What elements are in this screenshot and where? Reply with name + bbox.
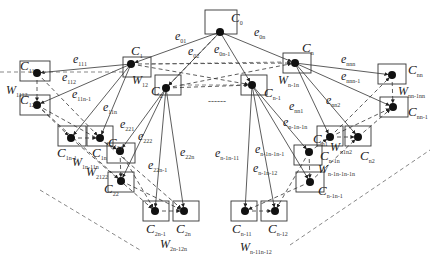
node-dot <box>96 134 104 142</box>
edge-label: e22n <box>180 145 194 160</box>
edge-label: e0n <box>254 25 265 40</box>
edge-line <box>295 63 328 133</box>
weight-label: Wnn-1nn <box>398 84 425 99</box>
edge-label: en-1n-12 <box>253 161 277 176</box>
node-label: Cn1 <box>313 131 328 147</box>
weight-label: Wn-1n-1n-1n <box>318 162 355 177</box>
weight-label: W12 <box>132 73 148 88</box>
diagram-canvas: C0C1C2CnCn-1C11C12C1n-1C1nC21C22C2n-1C2n… <box>0 0 433 256</box>
edge-label: en-1n-1n-1 <box>255 142 284 157</box>
node-label: Cn-12 <box>268 221 288 237</box>
node-label: Cn <box>302 40 314 56</box>
labels-layer: C0C1C2CnCn-1C11C12C1n-1C1nC21C22C2n-1C2n… <box>6 10 428 255</box>
edge-label: en-1n-11 <box>215 146 239 161</box>
dashed-link <box>40 190 140 250</box>
node-label: Cnn-1 <box>408 104 428 120</box>
edge-label: e22n-1 <box>148 158 167 173</box>
edge-label: ennn-1 <box>341 69 360 84</box>
edge-label: e11n-1 <box>72 87 91 102</box>
graph-svg: C0C1C2CnCn-1C11C12C1n-1C1nC21C22C2n-1C2n… <box>0 0 433 256</box>
node-dot <box>151 207 159 215</box>
edge-line <box>166 85 248 88</box>
node-dot <box>117 177 125 185</box>
node-dot <box>248 81 256 89</box>
node-dot <box>241 207 249 215</box>
node-label: C22 <box>104 181 119 197</box>
edge-label: e01 <box>175 29 186 44</box>
edges-layer <box>0 32 430 250</box>
node-label: Cn-11 <box>232 221 251 237</box>
node-dot <box>180 207 188 215</box>
edge-label: enn1 <box>289 99 303 114</box>
node-dot <box>305 148 313 156</box>
ellipsis-text: ------ <box>208 96 226 106</box>
edge-label: e111 <box>73 52 87 67</box>
node-dot <box>388 71 396 79</box>
edge-line <box>131 64 248 84</box>
weight-label: W2n-12n <box>160 237 187 252</box>
edge-line <box>249 182 310 209</box>
edge-line <box>131 63 291 64</box>
node-dot <box>127 60 135 68</box>
edge-line <box>245 85 252 207</box>
edge-line <box>392 75 393 103</box>
node-dot <box>67 134 75 142</box>
node-label: Cn2 <box>360 148 375 164</box>
node-label: C2n-1 <box>146 221 166 237</box>
node-label: C0 <box>231 10 243 26</box>
edge-line <box>121 181 180 209</box>
node-label: C2n <box>176 221 191 237</box>
dashed-link <box>290 150 430 245</box>
node-dot <box>389 103 397 111</box>
node-label: C1n <box>92 145 107 161</box>
node-dot <box>162 84 170 92</box>
node-label: C11 <box>20 58 34 74</box>
node-label: C2 <box>151 83 163 99</box>
node-label: Cnn <box>408 62 423 78</box>
edge-label: e0n-1 <box>214 42 230 57</box>
edge-label: enn2 <box>326 93 340 108</box>
edge-line <box>277 152 309 208</box>
weight-label: W1112 <box>6 83 28 98</box>
edge-line <box>358 110 390 137</box>
weight-label: Wn-1n <box>278 73 299 88</box>
node-dot <box>271 207 279 215</box>
node-label: C1 <box>131 43 143 59</box>
node-dot <box>354 133 362 141</box>
edge-label: e02 <box>188 44 199 59</box>
weight-label: Wn-11n-12 <box>240 240 272 255</box>
node-dot <box>306 178 314 186</box>
node-dot <box>291 59 299 67</box>
edge-label: e221 <box>120 117 134 132</box>
edge-label: en-1n-1n <box>283 115 307 130</box>
node-label: Cn-1 <box>264 85 281 101</box>
weight-label: Wn1n2 <box>330 140 352 155</box>
edge-line <box>330 109 389 137</box>
edge-label: ennn <box>341 52 355 67</box>
node-label: Cn-1n-1 <box>318 183 343 199</box>
node-dot <box>216 28 224 36</box>
